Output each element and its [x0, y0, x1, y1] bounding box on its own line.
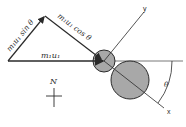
collision-diagram: m₁u₁ m₁u₁ sin θ m₁u₁ cos θ y x θ N: [0, 0, 186, 127]
north-label: N: [49, 77, 58, 86]
sin-component-label: m₁u₁ sin θ: [5, 17, 36, 53]
momentum-label: m₁u₁: [41, 51, 60, 60]
y-axis-line: [104, 12, 144, 61]
north-compass-icon: [46, 88, 62, 107]
x-axis-label: x: [167, 108, 171, 115]
large-ball: [111, 61, 149, 99]
y-axis-label: y: [143, 5, 147, 13]
